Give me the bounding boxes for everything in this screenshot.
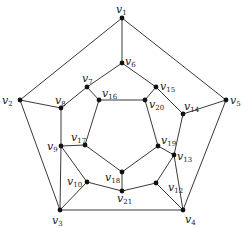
graph-edges (20, 18, 226, 210)
edge-v21-v12 (122, 183, 156, 191)
vertex-label-v18: v18 (105, 171, 120, 185)
vertex-label-v6: v6 (125, 55, 136, 69)
vertex-label-v10: v10 (67, 175, 82, 189)
edge-v7-v16 (87, 87, 99, 100)
vertex-label-v14: v14 (184, 100, 200, 114)
vertex-labels: v1v2v3v4v5v6v7v8v9v10v12v13v14v15v16v17v… (2, 3, 241, 228)
edge-v2-v3 (20, 100, 60, 210)
vertex-label-v9: v9 (47, 140, 58, 154)
vertex-label-v16: v16 (102, 87, 118, 101)
vertex-v15 (154, 85, 159, 90)
graph-vertices (18, 16, 229, 213)
edge-v19-v18 (122, 146, 158, 172)
vertex-label-v7: v7 (82, 72, 93, 86)
vertex-v12 (154, 181, 159, 186)
edge-v4-v5 (183, 100, 226, 210)
edge-v16-v17 (85, 100, 99, 145)
vertex-label-v2: v2 (2, 94, 13, 108)
vertex-label-v13: v13 (177, 150, 192, 164)
vertex-label-v12: v12 (168, 181, 183, 195)
edge-v3-v9 (60, 146, 61, 210)
edge-v12-v13 (156, 155, 174, 183)
vertex-label-v5: v5 (230, 94, 241, 108)
vertex-v16 (97, 98, 102, 103)
vertex-v6 (120, 61, 125, 66)
vertex-v18 (120, 170, 125, 175)
vertex-v2 (18, 98, 23, 103)
edge-v9-v17 (61, 145, 85, 146)
edge-v17-v18 (85, 145, 122, 172)
vertex-label-v1: v1 (116, 3, 127, 17)
vertex-v4 (181, 208, 186, 213)
vertex-label-v17: v17 (71, 131, 86, 145)
vertex-label-v3: v3 (52, 214, 63, 228)
vertex-v20 (143, 98, 148, 103)
vertex-v5 (224, 98, 229, 103)
vertex-label-v15: v15 (160, 80, 175, 94)
vertex-v13 (172, 153, 177, 158)
graph-diagram: v1v2v3v4v5v6v7v8v9v10v12v13v14v15v16v17v… (0, 0, 248, 228)
vertex-label-v20: v20 (149, 98, 164, 112)
vertex-v3 (58, 208, 63, 213)
edge-v9-v10 (61, 146, 87, 182)
vertex-label-v21: v21 (117, 192, 132, 206)
vertex-label-v8: v8 (55, 94, 66, 108)
vertex-v10 (85, 180, 90, 185)
vertex-v19 (156, 144, 161, 149)
vertex-label-v4: v4 (185, 213, 196, 227)
vertex-label-v19: v19 (161, 134, 176, 148)
vertex-v9 (59, 144, 64, 149)
edge-v14-v13 (174, 114, 183, 155)
